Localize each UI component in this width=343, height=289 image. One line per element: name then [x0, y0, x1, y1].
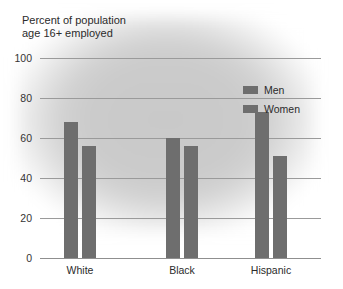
bar-hispanic-men — [255, 112, 269, 258]
y-axis-tick-label-20: 20 — [20, 212, 32, 224]
x-axis-category-label-hispanic: Hispanic — [251, 264, 291, 276]
legend-swatch-women-icon — [243, 105, 258, 113]
y-axis-tick-label-60: 60 — [20, 132, 32, 144]
x-axis-category-label-white: White — [67, 264, 94, 276]
legend-item-men[interactable]: Men — [243, 82, 300, 97]
chart-legend: MenWomen — [243, 82, 300, 120]
bar-black-women — [184, 146, 198, 258]
legend-swatch-men-icon — [243, 86, 258, 94]
gridline-100 — [40, 58, 321, 59]
bar-black-men — [166, 138, 180, 258]
gridline-60 — [40, 138, 321, 139]
bar-white-men — [64, 122, 78, 258]
y-axis-tick-label-0: 0 — [26, 252, 32, 264]
y-axis-tick-label-80: 80 — [20, 92, 32, 104]
legend-item-women[interactable]: Women — [243, 101, 300, 116]
x-axis-category-label-black: Black — [169, 264, 195, 276]
chart-title: Percent of populationage 16+ employed — [22, 14, 126, 40]
y-axis-tick-label-40: 40 — [20, 172, 32, 184]
chart-title-line-1: Percent of population — [22, 14, 126, 26]
axis-baseline — [40, 258, 321, 259]
bar-chart: Percent of populationage 16+ employed 02… — [0, 0, 343, 289]
bar-white-women — [82, 146, 96, 258]
y-axis-labels: 020406080100 — [0, 58, 36, 258]
bar-hispanic-women — [273, 156, 287, 258]
legend-label-women: Women — [264, 103, 300, 115]
legend-label-men: Men — [264, 84, 284, 96]
chart-title-line-2: age 16+ employed — [22, 27, 113, 39]
y-axis-tick-label-100: 100 — [14, 52, 32, 64]
